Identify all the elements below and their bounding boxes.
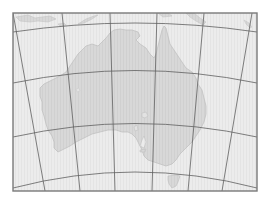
map-container: Australia: [0, 0, 265, 203]
inland-lake: [76, 88, 80, 92]
map-canvas[interactable]: [0, 0, 265, 203]
